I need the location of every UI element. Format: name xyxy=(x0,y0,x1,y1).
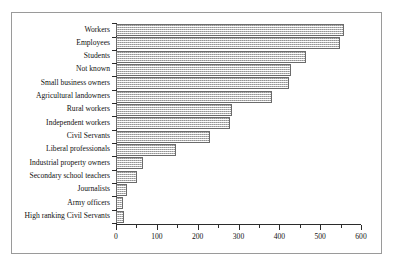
bar-rect xyxy=(116,24,344,36)
x-tick-label: 500 xyxy=(314,232,325,241)
y-axis-category-labels: WorkersEmployeesStudentsNot knownSmall b… xyxy=(0,0,110,266)
x-tick-major xyxy=(239,225,240,230)
y-axis-label: Agricultural landowners xyxy=(0,92,110,100)
bar-rect xyxy=(116,77,289,89)
bar-rect xyxy=(116,91,272,103)
bar-rect xyxy=(116,197,123,209)
x-tick-major xyxy=(198,225,199,230)
x-tick-major xyxy=(361,225,362,230)
y-axis-label: Army officers xyxy=(0,199,110,207)
bar-rect xyxy=(116,37,340,49)
y-axis-label: Students xyxy=(0,52,110,60)
x-tick-label: 0 xyxy=(114,232,118,241)
bar-rect xyxy=(116,184,127,196)
y-axis-label: Secondary school teachers xyxy=(0,172,110,180)
bar-rect xyxy=(116,211,124,223)
bar-rect xyxy=(116,64,291,76)
y-tick-mark xyxy=(112,223,117,224)
y-axis-label: Civil Servants xyxy=(0,132,110,140)
x-tick-label: 200 xyxy=(192,232,203,241)
y-axis-label: Journalists xyxy=(0,185,110,193)
x-tick-minor xyxy=(218,225,219,228)
y-axis-label: Rural workers xyxy=(0,105,110,113)
x-tick-label: 400 xyxy=(274,232,285,241)
bar-rect xyxy=(116,131,210,143)
bar-chart-figure: WorkersEmployeesStudentsNot knownSmall b… xyxy=(0,0,394,266)
x-tick-label: 100 xyxy=(151,232,162,241)
y-axis-label: Employees xyxy=(0,39,110,47)
x-tick-minor xyxy=(341,225,342,228)
x-tick-major xyxy=(116,225,117,230)
x-tick-major xyxy=(279,225,280,230)
bar-rect xyxy=(116,51,306,63)
x-tick-minor xyxy=(177,225,178,228)
bar-rect xyxy=(116,144,176,156)
x-tick-label: 300 xyxy=(233,232,244,241)
y-axis-label: Not known xyxy=(0,65,110,73)
bar-rect xyxy=(116,117,230,129)
x-tick-major xyxy=(320,225,321,230)
y-axis-label: Small business owners xyxy=(0,79,110,87)
y-axis-label: Workers xyxy=(0,26,110,34)
y-axis-label: Industrial property owners xyxy=(0,159,110,167)
bar-rect xyxy=(116,157,143,169)
x-tick-label: 600 xyxy=(355,232,366,241)
bar-rect xyxy=(116,104,232,116)
y-axis-label: Liberal professionals xyxy=(0,145,110,153)
y-axis-label: High ranking Civil Servants xyxy=(0,212,110,220)
x-tick-minor xyxy=(300,225,301,228)
x-tick-minor xyxy=(259,225,260,228)
x-tick-major xyxy=(157,225,158,230)
x-tick-minor xyxy=(136,225,137,228)
y-axis-label: Independent workers xyxy=(0,119,110,127)
bar-rect xyxy=(116,171,137,183)
